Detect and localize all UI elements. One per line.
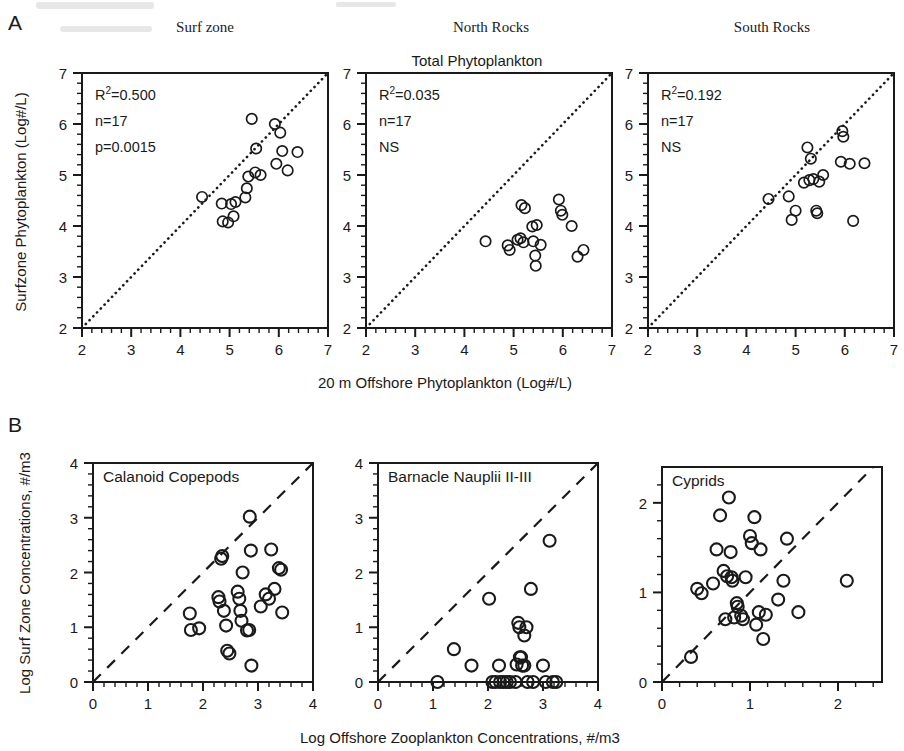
x-tick-label-a3-0: 2 — [644, 341, 652, 358]
x-tick-label-a1-0: 2 — [78, 341, 86, 358]
stat-n-a3: n=17 — [661, 113, 694, 129]
x-tick-label-a3-1: 3 — [693, 341, 701, 358]
x-tick-label-a1-3: 5 — [225, 341, 233, 358]
chart-title-b3: Cyprids — [672, 472, 725, 489]
x-tick-label-a2-4: 6 — [559, 341, 567, 358]
y-axis-label-row-b: Log Surf Zone Concentrations, #/m3 — [16, 452, 33, 694]
y-tick-label-a2-3: 5 — [343, 167, 351, 184]
stat-significance-a2: NS — [379, 139, 399, 155]
x-axis-label-row-a: 20 m Offshore Phytoplankton (Log#/L) — [318, 374, 572, 391]
y-tick-label-a1-0: 2 — [59, 320, 67, 337]
y-tick-label-a2-0: 2 — [343, 320, 351, 337]
stat-n-a1: n=17 — [95, 113, 128, 129]
y-tick-label-a1-1: 3 — [59, 269, 67, 286]
y-tick-label-a3-0: 2 — [625, 320, 633, 337]
x-tick-label-a1-1: 3 — [127, 341, 135, 358]
x-tick-label-a2-3: 5 — [509, 341, 517, 358]
x-tick-label-a1-4: 6 — [275, 341, 283, 358]
y-tick-label-b2-3: 3 — [355, 510, 363, 527]
chart-title-a1: Surf zone — [176, 19, 234, 35]
stat-r-squared-a1: R2=0.500 — [95, 85, 156, 103]
x-tick-label-a1-5: 7 — [324, 341, 332, 358]
x-tick-label-a3-4: 6 — [841, 341, 849, 358]
x-tick-label-b2-0: 0 — [374, 695, 382, 712]
stat-r-squared-a3: R2=0.192 — [661, 85, 722, 103]
x-tick-label-b3-1: 1 — [746, 695, 754, 712]
x-tick-label-b3-2: 2 — [834, 695, 842, 712]
y-tick-label-a3-3: 5 — [625, 167, 633, 184]
y-tick-label-a3-1: 3 — [625, 269, 633, 286]
y-tick-label-a3-2: 4 — [625, 218, 633, 235]
y-tick-label-b2-1: 1 — [355, 619, 363, 636]
x-tick-label-b2-1: 1 — [429, 695, 437, 712]
x-axis-label-row-b: Log Offshore Zooplankton Concentrations,… — [300, 729, 620, 746]
y-tick-label-a2-5: 7 — [343, 65, 351, 82]
y-tick-label-b2-0: 0 — [355, 674, 363, 691]
chart-title-a3: South Rocks — [734, 19, 810, 35]
chart-title-b2: Barnacle Nauplii II-III — [388, 468, 532, 485]
figure-root: A B Surf zone North Rocks South Rocks To… — [0, 0, 904, 751]
y-tick-label-b1-0: 0 — [70, 674, 78, 691]
x-tick-label-a2-5: 7 — [608, 341, 616, 358]
y-tick-label-a1-2: 4 — [59, 218, 67, 235]
x-tick-label-a1-2: 4 — [176, 341, 184, 358]
x-tick-label-b1-1: 1 — [144, 695, 152, 712]
y-axis-label-row-a: Surfzone Phytoplankton (Log#/L) — [12, 92, 29, 311]
x-tick-label-a2-1: 3 — [411, 341, 419, 358]
stat-n-a2: n=17 — [379, 113, 412, 129]
supra-title-total-phytoplankton: Total Phytoplankton — [412, 52, 543, 69]
y-tick-label-a1-3: 5 — [59, 167, 67, 184]
y-tick-label-b1-1: 1 — [70, 619, 78, 636]
x-tick-label-a3-2: 4 — [742, 341, 750, 358]
x-tick-label-b1-3: 3 — [254, 695, 262, 712]
stat-r-squared-a2: R2=0.035 — [379, 85, 440, 103]
y-tick-label-a2-4: 6 — [343, 116, 351, 133]
x-tick-label-a3-3: 5 — [791, 341, 799, 358]
y-tick-label-a1-4: 6 — [59, 116, 67, 133]
stat-significance-a3: NS — [661, 139, 681, 155]
y-tick-label-a3-4: 6 — [625, 116, 633, 133]
x-tick-label-b2-2: 2 — [484, 695, 492, 712]
y-tick-label-a2-1: 3 — [343, 269, 351, 286]
x-tick-label-a3-5: 7 — [890, 341, 898, 358]
x-tick-label-b1-2: 2 — [199, 695, 207, 712]
chart-title-a2: North Rocks — [453, 19, 529, 35]
y-tick-label-b1-2: 2 — [70, 565, 78, 582]
y-tick-label-b3-2: 2 — [639, 495, 647, 512]
x-tick-label-b2-3: 3 — [539, 695, 547, 712]
figure-canvas: A B Surf zone North Rocks South Rocks To… — [0, 0, 904, 751]
y-tick-label-b1-4: 4 — [70, 455, 78, 472]
panel-letter-b: B — [8, 413, 22, 436]
y-tick-label-b3-0: 0 — [639, 674, 647, 691]
panel-letter-a: A — [8, 11, 22, 34]
y-tick-label-a2-2: 4 — [343, 218, 351, 235]
y-tick-label-b3-1: 1 — [639, 584, 647, 601]
y-tick-label-b2-2: 2 — [355, 565, 363, 582]
x-tick-label-b3-0: 0 — [658, 695, 666, 712]
x-tick-label-b1-4: 4 — [309, 695, 317, 712]
y-tick-label-a1-5: 7 — [59, 65, 67, 82]
x-tick-label-b1-0: 0 — [89, 695, 97, 712]
y-tick-label-a3-5: 7 — [625, 65, 633, 82]
y-tick-label-b2-4: 4 — [355, 455, 363, 472]
x-tick-label-a2-2: 4 — [460, 341, 468, 358]
chart-title-b1: Calanoid Copepods — [103, 468, 239, 485]
x-tick-label-a2-0: 2 — [362, 341, 370, 358]
x-tick-label-b2-4: 4 — [594, 695, 602, 712]
stat-significance-a1: p=0.0015 — [95, 139, 156, 155]
y-tick-label-b1-3: 3 — [70, 510, 78, 527]
